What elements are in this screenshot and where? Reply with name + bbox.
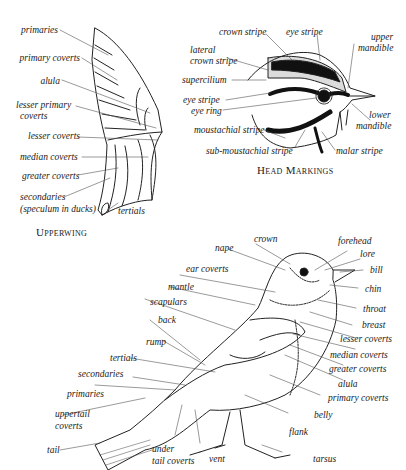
label-ear-coverts: ear coverts — [186, 264, 228, 274]
label-lower-mandible-2: mandible — [356, 121, 391, 131]
label-vent: vent — [209, 454, 225, 464]
label-median-coverts: median coverts — [330, 350, 388, 360]
label-malar-stripe: malar stripe — [336, 146, 383, 156]
label-bill: bill — [370, 265, 383, 275]
label-lesser-coverts-wing: lesser coverts — [28, 131, 80, 141]
label-tertials: tertials — [110, 353, 137, 363]
label-upper-mandible-2: mandible — [358, 43, 393, 53]
label-greater-coverts: greater coverts — [329, 364, 386, 374]
label-forehead: forehead — [338, 236, 371, 246]
label-chin: chin — [365, 284, 381, 294]
label-eye-ring: eye ring — [191, 106, 222, 116]
label-flank: flank — [289, 427, 308, 437]
label-sub-moustachial-stripe: sub-moustachial stripe — [206, 146, 293, 156]
label-tail: tail — [47, 445, 60, 455]
label-alula-wing: alula — [20, 76, 60, 86]
label-crown: crown — [254, 234, 277, 244]
label-primaries: primaries — [67, 389, 104, 399]
label-eye-stripe-top: eye stripe — [286, 27, 323, 37]
label-lateral-crown-stripe-2: crown stripe — [190, 56, 237, 66]
label-greater-coverts-wing: greater coverts — [22, 171, 79, 181]
label-primaries-wing: primaries — [14, 25, 58, 35]
label-back: back — [158, 315, 176, 325]
label-lower-mandible-1: lower — [369, 110, 391, 120]
label-supercilium: supercilium — [182, 75, 227, 85]
upperwing-caption: Upperwing — [36, 226, 87, 238]
label-uppertail-coverts-1: uppertail — [55, 409, 90, 419]
label-secondaries-wing-1: secondaries — [20, 192, 65, 202]
label-secondaries: secondaries — [78, 369, 123, 379]
label-rump: rump — [146, 337, 166, 347]
label-alula: alula — [338, 379, 358, 389]
label-upper-mandible-1: upper — [371, 32, 393, 42]
label-tarsus: tarsus — [313, 454, 336, 464]
label-primary-coverts-wing: primary coverts — [10, 53, 80, 63]
label-eye-stripe: eye stripe — [183, 95, 220, 105]
label-throat: throat — [363, 304, 386, 314]
label-crown-stripe: crown stripe — [219, 27, 266, 37]
label-lesser-primary-coverts-1: lesser primary — [16, 100, 71, 110]
label-primary-coverts: primary coverts — [328, 393, 388, 403]
label-breast: breast — [362, 320, 385, 330]
head-markings-caption: Head Markings — [257, 164, 333, 176]
label-tertials-wing: tertials — [118, 206, 145, 216]
label-lateral-crown-stripe-1: lateral — [190, 45, 215, 55]
label-median-coverts-wing: median coverts — [20, 152, 78, 162]
label-undertail-coverts-2: tail coverts — [152, 456, 194, 466]
label-lesser-primary-coverts-2: coverts — [20, 111, 47, 121]
label-belly: belly — [314, 410, 332, 420]
label-lore: lore — [360, 249, 375, 259]
label-uppertail-coverts-2: coverts — [55, 421, 82, 431]
label-mantle: mantle — [168, 282, 194, 292]
label-secondaries-wing-2: (speculum in ducks) — [20, 204, 96, 214]
label-undertail-coverts-1: under — [152, 444, 174, 454]
head-drawing — [248, 52, 375, 152]
label-lesser-coverts: lesser coverts — [340, 334, 392, 344]
label-scapulars: scapulars — [150, 297, 187, 307]
label-moustachial-stripe: moustachial stripe — [194, 125, 264, 135]
label-nape: nape — [215, 243, 233, 253]
upperwing-drawing — [92, 28, 162, 215]
